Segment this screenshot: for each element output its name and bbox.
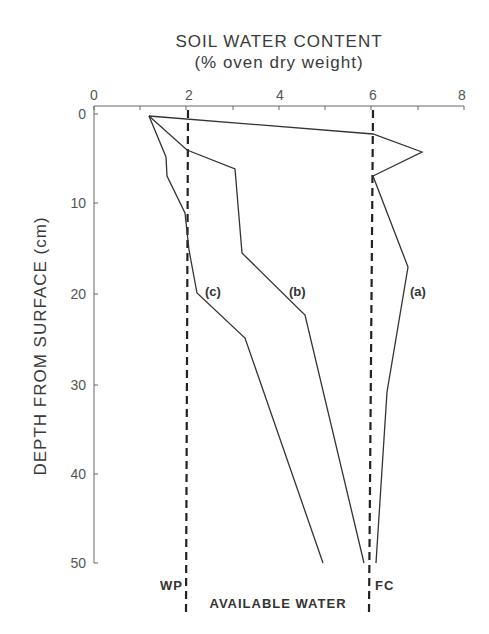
y-tick-50: 50 [70,555,86,571]
y-tick-10: 10 [70,195,86,211]
y-tick-0: 0 [78,106,86,122]
curve-label-b: (b) [289,284,306,299]
y-tick-20: 20 [70,286,86,302]
wilting-point-line [186,110,188,612]
curve-b [149,116,364,563]
x-axis: 0 2 4 6 8 [90,87,466,110]
chart-subtitle: (% oven dry weight) [194,53,363,72]
y-tick-40: 40 [70,466,86,482]
soil-water-chart: SOIL WATER CONTENT (% oven dry weight) 0… [0,0,489,634]
x-tick-4: 4 [276,87,284,103]
fc-label: FC [375,578,394,593]
y-axis-label: DEPTH FROM SURFACE (cm) [31,216,50,475]
y-axis: 0 10 20 30 40 50 [70,106,98,571]
curve-label-a: (a) [410,284,426,299]
field-capacity-line [369,110,373,612]
x-tick-2: 2 [185,87,193,103]
chart-title: SOIL WATER CONTENT [175,32,382,51]
x-tick-6: 6 [369,87,377,103]
available-water-label: AVAILABLE WATER [209,596,346,611]
curve-a [149,116,422,563]
y-tick-30: 30 [70,377,86,393]
curve-label-c: (c) [205,284,221,299]
x-tick-8: 8 [458,87,466,103]
wp-label: WP [160,578,183,593]
x-tick-0: 0 [90,87,98,103]
